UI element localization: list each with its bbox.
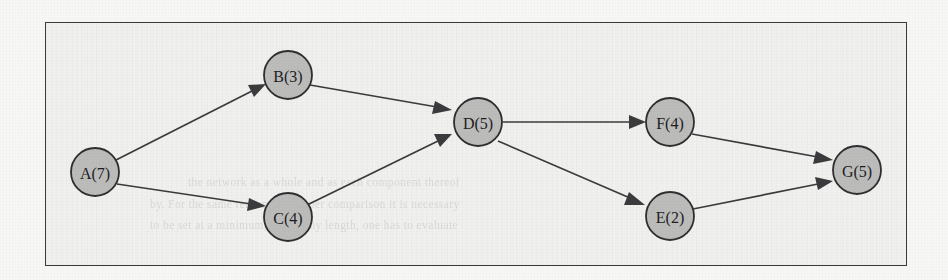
arrowhead-icon [247, 198, 266, 211]
edge-e-to-g [693, 177, 833, 209]
arrowhead-icon [629, 115, 646, 129]
edge-d-to-f [503, 115, 646, 129]
node-b[interactable]: B(3) [264, 51, 312, 99]
edge-c-to-d [307, 134, 452, 205]
node-e-label: E(2) [656, 209, 684, 227]
arrowhead-icon [432, 101, 452, 114]
arrowhead-icon [815, 177, 833, 190]
arrowhead-icon [434, 134, 452, 147]
node-e[interactable]: E(2) [646, 192, 694, 240]
node-a-label: A(7) [80, 165, 110, 183]
node-d-label: D(5) [463, 115, 493, 133]
node-f-label: F(4) [656, 115, 684, 133]
node-c[interactable]: C(4) [264, 193, 312, 241]
arrowhead-icon [248, 84, 266, 97]
figure-page: the network as a whole and as each compo… [0, 0, 948, 280]
edge-b-to-d [310, 85, 452, 114]
arrowhead-icon [624, 192, 645, 205]
arrowhead-icon [813, 151, 833, 164]
node-c-label: C(4) [273, 210, 302, 228]
node-f[interactable]: F(4) [646, 98, 694, 146]
node-g[interactable]: G(5) [833, 146, 881, 194]
edge-a-to-c [117, 184, 266, 211]
node-b-label: B(3) [273, 68, 302, 86]
edge-a-to-b [116, 84, 266, 160]
node-g-label: G(5) [842, 163, 872, 181]
node-d[interactable]: D(5) [454, 98, 502, 146]
network-diagram: A(7) B(3) C(4) D(5) F(4) E(2) [0, 0, 948, 280]
edge-f-to-g [692, 134, 833, 164]
node-a[interactable]: A(7) [71, 148, 119, 196]
edge-d-to-e [498, 141, 645, 205]
